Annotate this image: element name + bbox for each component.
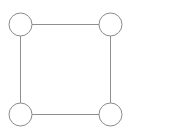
node-circle[interactable] — [99, 103, 122, 126]
graph-svg — [0, 0, 182, 132]
node-circle[interactable] — [9, 103, 32, 126]
node-top-right[interactable] — [99, 13, 122, 36]
graph-diagram-canvas — [0, 0, 182, 132]
node-bottom-right[interactable] — [99, 103, 122, 126]
node-circle[interactable] — [9, 13, 32, 36]
node-bottom-left[interactable] — [9, 103, 32, 126]
node-top-left[interactable] — [9, 13, 32, 36]
node-circle[interactable] — [99, 13, 122, 36]
